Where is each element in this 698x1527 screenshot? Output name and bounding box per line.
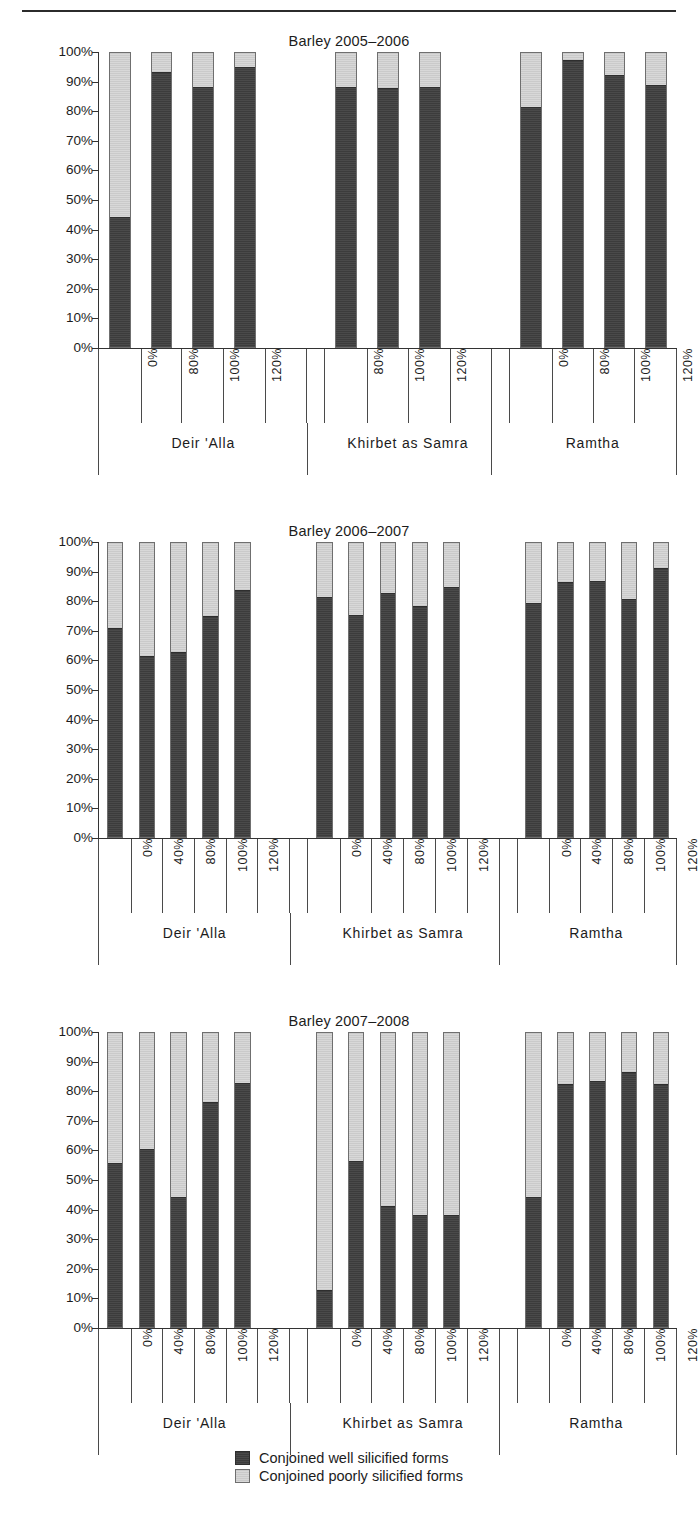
y-axis-tick-mark: [92, 542, 99, 543]
legend-swatch-light-icon: [235, 1469, 250, 1483]
x-axis: 0%40%80%100%120%Deir 'Alla0%40%80%100%12…: [98, 1329, 676, 1455]
stacked-bar: [525, 542, 542, 838]
bar-slot: [340, 1032, 372, 1328]
bar-segment-well-silicified: [108, 1163, 123, 1327]
bar-slot: [613, 1032, 645, 1328]
x-axis-column: [467, 1329, 500, 1403]
stacked-bar: [621, 1032, 638, 1328]
bar-segment-well-silicified: [420, 87, 440, 347]
x-axis-column: [467, 839, 500, 913]
y-axis-tick-label: 70%: [37, 1114, 93, 1128]
y-axis-tick-mark: [92, 749, 99, 750]
stacked-bar: [348, 1032, 365, 1328]
x-axis-column: 120%: [226, 839, 259, 913]
bar-slot: [581, 1032, 613, 1328]
y-axis-tick-label: 10%: [37, 1292, 93, 1306]
stacked-bar: [621, 542, 638, 838]
bar-slot: [195, 542, 227, 838]
bar-segment-well-silicified: [558, 582, 573, 837]
stacked-bar: [419, 52, 441, 348]
stacked-bar: [443, 542, 460, 838]
top-divider-rule: [22, 10, 676, 12]
y-axis-tick-mark: [92, 318, 99, 319]
bar-slot: [549, 1032, 581, 1328]
x-axis-group-label: Deir 'Alla: [99, 435, 307, 451]
stacked-bar: [380, 1032, 397, 1328]
stacked-bar: [170, 542, 187, 838]
stacked-bar: [109, 52, 131, 348]
bar-segment-well-silicified: [336, 87, 356, 347]
y-axis-labels: 100%90%80%70%60%50%40%30%20%10%0%: [37, 542, 93, 838]
legend-item: Conjoined well silicified forms: [235, 1450, 463, 1466]
x-axis-column: 120%: [435, 1329, 468, 1403]
stacked-bar: [202, 1032, 219, 1328]
bar-segment-well-silicified: [558, 1084, 573, 1327]
bar-segment-well-silicified: [152, 72, 172, 347]
bar-slot: [372, 1032, 404, 1328]
y-axis-tick-mark: [92, 1239, 99, 1240]
stacked-bar: [170, 1032, 187, 1328]
stacked-bar: [151, 52, 173, 348]
stacked-bar: [557, 1032, 574, 1328]
stacked-bar: [604, 52, 626, 348]
bar-slot: [195, 1032, 227, 1328]
stacked-bar: [335, 52, 357, 348]
x-axis-column: 40%: [130, 1329, 163, 1403]
y-axis-tick-label: 30%: [37, 252, 93, 266]
x-axis-group-band: Deir 'Alla: [98, 423, 308, 475]
x-axis-group-band: Khirbet as Samra: [324, 423, 492, 475]
bar-slot: [645, 542, 677, 838]
x-axis-group-label: Deir 'Alla: [99, 925, 290, 941]
bar-slot: [227, 542, 259, 838]
plot-area: 100%90%80%70%60%50%40%30%20%10%0%: [98, 1032, 677, 1329]
bar-segment-well-silicified: [171, 1197, 186, 1327]
y-axis-tick-mark: [92, 1269, 99, 1270]
bar-segment-well-silicified: [521, 107, 541, 347]
x-axis-column: 120%: [435, 839, 468, 913]
bar-slot: [645, 1032, 677, 1328]
stacked-bar: [589, 1032, 606, 1328]
bar-slot: [518, 542, 550, 838]
y-axis-tick-label: 70%: [37, 624, 93, 638]
y-axis-tick-label: 50%: [37, 683, 93, 697]
y-axis-tick-label: 90%: [37, 1055, 93, 1069]
bar-segment-well-silicified: [413, 1215, 428, 1327]
bar-segment-well-silicified: [381, 1206, 396, 1327]
stacked-bar: [412, 542, 429, 838]
legend-label: Conjoined poorly silicified forms: [259, 1468, 463, 1484]
bar-segment-well-silicified: [622, 599, 637, 837]
x-axis-group-label: Khirbet as Samra: [307, 925, 498, 941]
y-axis-tick-mark: [92, 808, 99, 809]
bar-segment-well-silicified: [140, 656, 155, 837]
bar-slot: [404, 542, 436, 838]
bar-slot: [613, 542, 645, 838]
y-axis-tick-label: 80%: [37, 1084, 93, 1098]
x-axis-column: 100%: [366, 349, 409, 423]
y-axis-tick-mark: [92, 289, 99, 290]
bar-slot: [510, 52, 552, 348]
y-axis-tick-label: 100%: [37, 1025, 93, 1039]
x-axis-column: 0%: [517, 839, 551, 913]
y-axis-tick-mark: [92, 1210, 99, 1211]
stacked-bar: [653, 1032, 670, 1328]
bars-container: [99, 1032, 677, 1328]
bar-segment-well-silicified: [590, 581, 605, 837]
plot-wrapper: 100%90%80%70%60%50%40%30%20%10%0% 0%40%8…: [36, 1032, 686, 1455]
bar-slot: [99, 52, 141, 348]
y-axis-tick-label: 10%: [37, 802, 93, 816]
stacked-bar: [348, 542, 365, 838]
x-axis-column: 40%: [339, 839, 372, 913]
y-axis-tick-label: 80%: [37, 594, 93, 608]
bar-segment-well-silicified: [605, 75, 625, 347]
x-axis-column: 80%: [551, 349, 594, 423]
legend-swatch-dark-icon: [235, 1451, 250, 1465]
x-axis-group-band: Ramtha: [517, 913, 677, 965]
x-axis-column: 120%: [644, 1329, 677, 1403]
stacked-bar: [443, 1032, 460, 1328]
bar-slot: [163, 1032, 195, 1328]
x-axis-group-label: Ramtha: [517, 925, 676, 941]
stacked-bar: [139, 542, 156, 838]
chart-barley-2006-2007: Barley 2006–2007 100%90%80%70%60%50%40%3…: [0, 512, 698, 1002]
x-axis-group-label: Khirbet as Samra: [324, 435, 491, 451]
y-axis-tick-mark: [92, 1091, 99, 1092]
